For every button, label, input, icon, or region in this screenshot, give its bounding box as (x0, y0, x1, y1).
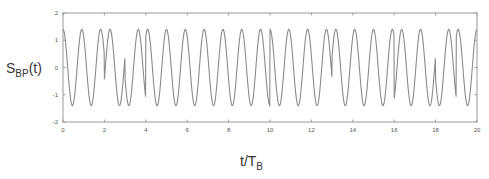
x-tick-label: 8 (227, 127, 231, 133)
x-tick-label: 14 (349, 127, 356, 133)
x-tick-label: 4 (144, 127, 148, 133)
plot-area: 02468101214161820 210-1-2 (53, 10, 481, 133)
x-tick-label: 2 (103, 127, 107, 133)
signal-line (63, 29, 477, 105)
x-tick-label: 6 (186, 127, 190, 133)
x-tick-label: 12 (308, 127, 315, 133)
x-axis-title: t/TB (240, 153, 263, 172)
y-tick-label: 1 (55, 37, 59, 43)
y-axis-title: SBP(t) (6, 60, 42, 79)
y-tick-label: -2 (53, 119, 59, 125)
x-tick-label: 16 (391, 127, 398, 133)
y-tick-label: -1 (53, 92, 59, 98)
x-tick-label: 0 (61, 127, 65, 133)
y-tick-label: 0 (55, 65, 59, 71)
x-tick-label: 18 (432, 127, 439, 133)
y-tick-label: 2 (55, 10, 59, 16)
bpsk-signal-chart: 02468101214161820 210-1-2 SBP(t) t/TB (0, 0, 489, 179)
x-tick-label: 20 (474, 127, 481, 133)
x-tick-label: 10 (267, 127, 274, 133)
